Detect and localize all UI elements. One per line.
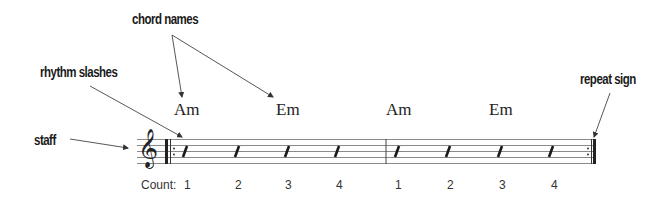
count-beat: 3 (499, 179, 506, 191)
label-repeat-sign: repeat sign (580, 72, 636, 86)
staff (137, 140, 596, 164)
arrow-repeat-sign (594, 93, 610, 137)
chord-name: Am (174, 101, 200, 118)
count-beat: 3 (285, 179, 292, 191)
arrow-rhythm-slashes (90, 86, 182, 137)
chord-name: Em (276, 101, 300, 118)
arrow-staff (70, 139, 128, 148)
label-rhythm-slashes: rhythm slashes (40, 65, 117, 79)
label-staff: staff (34, 133, 56, 147)
count-beat: 2 (447, 179, 454, 191)
rhythm-notation-diagram: 𝄞 chord names rhythm slashes staff repea… (0, 0, 671, 202)
treble-clef-icon: 𝄞 (138, 130, 158, 164)
count-beat: 2 (235, 179, 242, 191)
count-beat: 1 (184, 179, 191, 191)
notation-graphics (0, 0, 671, 202)
arrow-chord-names-em (172, 35, 273, 97)
count-beat: 4 (551, 179, 558, 191)
chord-name: Am (386, 101, 412, 118)
arrow-chord-names-am (172, 35, 182, 97)
chord-name: Em (489, 101, 513, 118)
label-chord-names: chord names (132, 12, 198, 26)
count-beat: 1 (395, 179, 402, 191)
count-label: Count: (141, 179, 176, 191)
count-beat: 4 (336, 179, 343, 191)
